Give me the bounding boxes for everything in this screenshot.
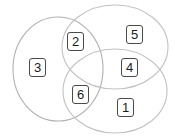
venn-set-outlines xyxy=(0,0,175,139)
region-label-left-only: 3 xyxy=(29,58,46,77)
region-label-left-and-bottom: 6 xyxy=(72,85,89,104)
venn-diagram-figure: 3 2 5 4 6 1 xyxy=(0,0,175,139)
region-label-left-and-top: 2 xyxy=(67,32,84,51)
region-label-top-and-bottom: 4 xyxy=(121,58,138,77)
set-outline-left xyxy=(13,17,103,121)
region-label-top-only: 5 xyxy=(126,25,143,44)
region-label-bottom-only: 1 xyxy=(117,98,134,117)
